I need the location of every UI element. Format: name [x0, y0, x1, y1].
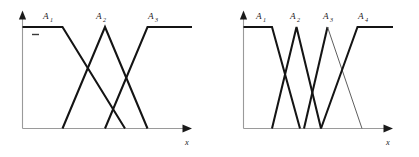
- right-chart-svg: A 1 A 2 A 3 A 4 x: [209, 0, 419, 157]
- membership-curve-a3-fall: [328, 27, 363, 129]
- x-axis-label: x: [385, 138, 390, 147]
- set-label-a2-subscript: 2: [297, 17, 300, 23]
- set-label-a3: A: [322, 11, 329, 21]
- set-label-a2-subscript: 2: [103, 17, 106, 23]
- membership-curve-a3: [105, 27, 192, 129]
- set-label-a3-subscript: 3: [329, 17, 333, 23]
- set-label-a3: A: [147, 11, 154, 21]
- set-label-a4: A: [357, 11, 364, 21]
- membership-curve-a3-rise: [304, 27, 328, 129]
- set-label-a1-subscript: 1: [50, 17, 53, 23]
- membership-curve-a1: [23, 27, 126, 129]
- x-axis-arrowhead: [183, 125, 193, 133]
- chart-panel-right: A 1 A 2 A 3 A 4 x: [209, 0, 419, 157]
- set-label-a3-subscript: 3: [154, 17, 158, 23]
- set-label-a2: A: [95, 11, 102, 21]
- y-axis-arrowhead: [19, 11, 26, 20]
- membership-curve-a2: [63, 27, 148, 129]
- set-label-a4-subscript: 4: [365, 17, 368, 23]
- set-label-a1: A: [42, 11, 49, 21]
- y-axis-arrowhead: [240, 11, 247, 20]
- left-chart-svg: A 1 A 2 A 3 x: [0, 0, 209, 157]
- set-label-a1: A: [255, 11, 262, 21]
- membership-curve-a1: [244, 27, 301, 129]
- set-label-a2: A: [289, 11, 296, 21]
- set-label-a1-subscript: 1: [263, 17, 266, 23]
- x-axis-arrowhead: [384, 125, 394, 133]
- x-axis-label: x: [184, 138, 189, 147]
- figure-root: A 1 A 2 A 3 x: [0, 0, 419, 157]
- chart-panel-left: A 1 A 2 A 3 x: [0, 0, 209, 157]
